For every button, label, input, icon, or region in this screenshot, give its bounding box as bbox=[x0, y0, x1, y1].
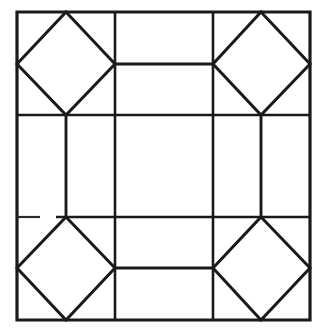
diagram-background bbox=[0, 0, 321, 330]
diagram-root bbox=[0, 0, 321, 330]
tiling-diagram bbox=[0, 0, 321, 330]
